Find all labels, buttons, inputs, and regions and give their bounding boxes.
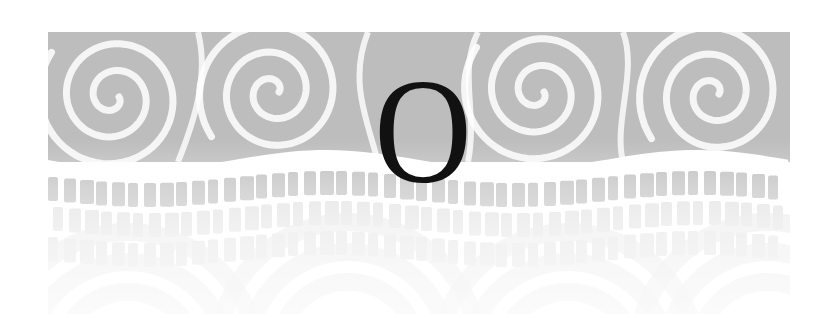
pattern-block xyxy=(672,171,685,195)
pattern-block xyxy=(277,203,290,227)
pattern-block xyxy=(352,172,365,196)
pattern-block xyxy=(208,179,218,203)
pattern-block xyxy=(224,178,236,202)
pattern-block xyxy=(213,209,223,233)
pattern-block xyxy=(656,232,667,256)
pattern-block xyxy=(544,182,556,206)
pattern-block xyxy=(181,212,192,236)
pattern-block xyxy=(629,205,641,229)
arc-motif xyxy=(498,292,638,314)
pattern-block xyxy=(693,201,703,225)
pattern-block xyxy=(752,174,765,198)
pattern-block xyxy=(53,207,63,231)
pattern-block xyxy=(69,209,81,233)
pattern-block xyxy=(245,206,259,230)
pattern-block xyxy=(144,183,156,207)
pattern-block xyxy=(613,206,623,230)
pattern-block xyxy=(272,173,285,197)
pattern-block xyxy=(229,208,241,232)
pattern-block xyxy=(288,172,298,196)
arc-motif xyxy=(58,292,198,314)
pattern-block xyxy=(736,173,747,197)
pattern-block xyxy=(224,238,236,262)
pattern-block xyxy=(197,211,210,235)
pattern-block xyxy=(720,172,734,196)
pattern-block xyxy=(661,202,672,226)
pattern-block xyxy=(480,182,494,206)
arc-motif xyxy=(698,282,790,314)
pattern-block xyxy=(336,171,347,195)
pattern-block xyxy=(80,180,94,204)
pattern-block xyxy=(645,203,659,227)
pattern-block xyxy=(576,179,587,203)
pattern-block xyxy=(96,181,107,205)
pattern-block xyxy=(128,183,138,207)
pattern-block xyxy=(240,176,254,200)
pattern-block xyxy=(656,172,667,196)
pattern-block xyxy=(64,179,76,203)
pattern-block xyxy=(261,205,272,229)
pattern-block xyxy=(256,175,267,199)
pattern-block xyxy=(112,182,125,206)
pattern-block xyxy=(485,212,499,236)
pattern-block xyxy=(768,175,778,199)
pattern-block xyxy=(512,183,525,207)
pattern-block xyxy=(608,176,618,200)
pattern-block xyxy=(709,201,721,225)
pattern-block xyxy=(304,171,316,195)
pattern-block xyxy=(160,183,174,207)
pattern-block xyxy=(501,213,512,237)
pattern-block xyxy=(176,182,187,206)
pattern-block xyxy=(560,181,574,205)
pattern-block xyxy=(320,171,334,195)
pattern-block xyxy=(496,183,507,207)
pattern-block xyxy=(624,175,636,199)
pattern-block xyxy=(528,183,538,207)
pattern-block xyxy=(592,178,605,202)
arc-motif xyxy=(278,282,418,314)
pattern-block xyxy=(192,181,205,205)
pattern-block xyxy=(704,171,716,195)
pattern-block xyxy=(688,171,698,195)
pattern-block xyxy=(48,177,58,201)
pattern-block xyxy=(640,173,654,197)
drop-cap-letter: O xyxy=(369,71,477,191)
pattern-block xyxy=(469,211,481,235)
pattern-block xyxy=(677,201,690,225)
